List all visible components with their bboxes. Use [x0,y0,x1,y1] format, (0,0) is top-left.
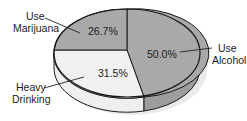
category-label-heavy-drinking-line2: Drinking [12,93,51,105]
value-label-marijuana: 26.7% [88,25,118,37]
category-label-heavy-drinking-line1: Heavy [16,81,47,93]
pie-chart: 26.7% 50.0% 31.5% Use Marijuana Use Alco… [0,0,247,121]
value-label-heavy-drinking: 31.5% [98,67,128,79]
category-label-marijuana-line2: Marijuana [13,22,59,34]
value-label-alcohol: 50.0% [147,48,177,60]
category-label-alcohol-line2: Alcohol [212,54,246,66]
category-label-marijuana-line1: Use [26,10,45,22]
category-label-alcohol-line1: Use [218,42,237,54]
